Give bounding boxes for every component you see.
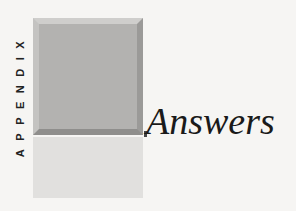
light-block (33, 137, 143, 198)
chapter-title: Answers (146, 102, 275, 140)
appendix-text: APPENDIX (14, 33, 26, 157)
bevel-block (33, 18, 143, 135)
appendix-label: APPENDIX (12, 20, 28, 170)
